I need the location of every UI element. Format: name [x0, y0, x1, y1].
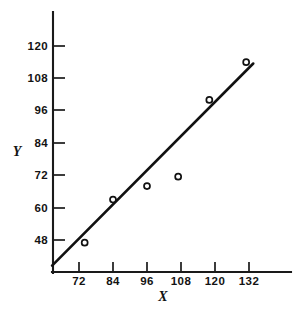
data-point — [144, 183, 150, 189]
x-tick-label-132: 132 — [239, 275, 259, 287]
scatter-plot-figure: 120 108 96 84 72 60 48 72 84 96 108 120 … — [0, 0, 306, 312]
y-tick-label-60: 60 — [34, 202, 48, 214]
y-axis-title: Y — [13, 144, 23, 159]
x-axis-title: X — [157, 289, 168, 304]
x-axis-tick-labels: 72 84 96 108 120 132 — [72, 275, 259, 287]
data-point — [243, 59, 249, 65]
y-tick-label-84: 84 — [34, 137, 48, 149]
y-tick-label-72: 72 — [34, 169, 48, 181]
data-point — [82, 240, 88, 246]
data-point — [175, 174, 181, 180]
y-axis-tick-labels: 120 108 96 84 72 60 48 — [28, 40, 49, 246]
axes-group — [52, 12, 291, 273]
regression-line — [52, 64, 253, 266]
x-tick-label-96: 96 — [140, 275, 154, 287]
x-tick-label-84: 84 — [106, 275, 120, 287]
x-tick-label-72: 72 — [72, 275, 86, 287]
y-axis-ticks — [54, 46, 65, 240]
plot-canvas: 120 108 96 84 72 60 48 72 84 96 108 120 … — [0, 0, 306, 312]
y-tick-label-96: 96 — [34, 104, 48, 116]
data-point — [206, 97, 212, 103]
y-tick-label-108: 108 — [28, 72, 49, 84]
x-tick-label-120: 120 — [205, 275, 225, 287]
y-tick-label-48: 48 — [34, 234, 48, 246]
x-axis-ticks — [79, 262, 249, 271]
data-point — [110, 197, 116, 203]
y-tick-label-120: 120 — [28, 40, 48, 52]
x-tick-label-108: 108 — [171, 275, 192, 287]
